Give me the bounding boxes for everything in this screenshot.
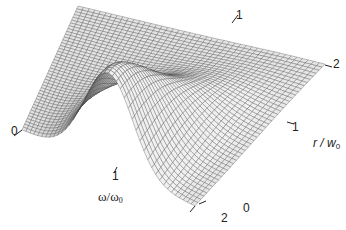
- axis-tick-mark: [190, 206, 195, 212]
- r-axis-label-sub: 0: [336, 142, 340, 151]
- r-tick-1: 1: [292, 121, 299, 133]
- r-axis-label-text: r / w: [313, 136, 336, 150]
- omega-axis-label-sub: 0: [119, 196, 123, 205]
- r-axis-label: r / w0: [313, 137, 340, 151]
- omega-tick-1: 1: [112, 170, 119, 182]
- axis-tick-mark: [325, 65, 332, 67]
- bottom-r-tick-0: 0: [243, 202, 250, 214]
- left-corner-tick-label: 0: [11, 125, 18, 137]
- surface-mesh: [22, 6, 325, 206]
- omega-axis-label-text: ω/ω: [98, 189, 119, 204]
- bottom-omega-tick-2: 2: [221, 212, 228, 224]
- top-tick-2: 2: [333, 58, 340, 70]
- surface-plot: [0, 0, 346, 230]
- omega-axis-label: ω/ω0: [98, 190, 123, 205]
- top-tick-1: 1: [236, 9, 243, 21]
- axis-tick-mark: [199, 201, 206, 204]
